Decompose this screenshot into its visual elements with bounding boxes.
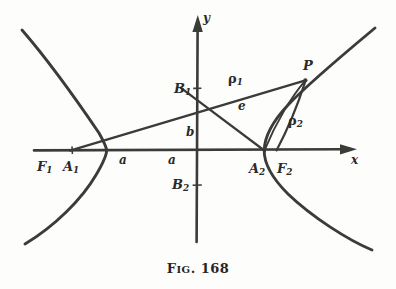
caption-number-value: 168 [201, 261, 230, 276]
y-axis-label: y [203, 12, 210, 24]
hyperbola-left-branch [22, 30, 107, 244]
semi-axis-a-left-label: a [119, 154, 127, 166]
x-axis-label: x [351, 154, 358, 166]
eccentricity-segment-label: e [238, 100, 246, 112]
conjugate-point-2-label: B2 [172, 178, 189, 193]
focus-1-label: F1 [37, 160, 52, 175]
figure-container: x y F1 A1 A2 F2 B1 B2 P ρ1 ρ2 e a a b FI… [0, 0, 396, 289]
hyperbola-right-branch [264, 28, 375, 250]
vertex-1-label: A1 [63, 160, 79, 175]
focal-radius-1-label: ρ1 [228, 72, 243, 87]
figure-caption: FIG. 168 [0, 258, 396, 277]
focal-radius-2-label: ρ2 [288, 114, 303, 129]
caption-ig: IG [176, 264, 190, 275]
semi-axis-b-label: b [186, 126, 194, 138]
point-p-marker [303, 78, 307, 82]
hyperbola-diagram-canvas [0, 0, 396, 289]
semi-axis-a-right-label: a [168, 154, 176, 166]
focus-2-label: F2 [277, 162, 292, 177]
conjugate-point-1-label: B1 [174, 82, 191, 97]
vertex-2-label: A2 [249, 162, 265, 177]
caption-f: F [167, 261, 177, 276]
point-p-label: P [303, 59, 313, 72]
